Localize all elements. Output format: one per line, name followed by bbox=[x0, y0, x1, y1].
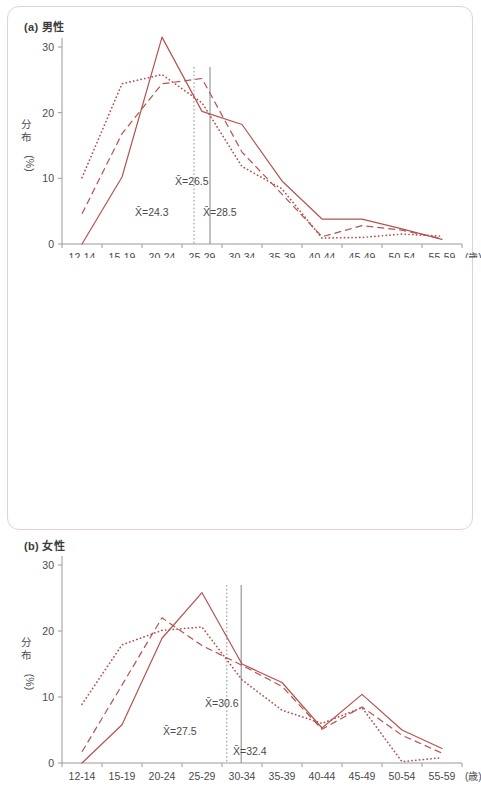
y-tick-label: 30 bbox=[42, 41, 54, 53]
annotation-mean-solid: X̄=27.5 bbox=[163, 725, 197, 737]
x-tick-label: 55-59 bbox=[429, 251, 456, 258]
x-tick-label: 30-34 bbox=[229, 770, 256, 782]
x-tick-label: 15-19 bbox=[109, 770, 136, 782]
x-tick-label: 40-44 bbox=[309, 251, 336, 258]
x-tick-label: 20-24 bbox=[149, 770, 176, 782]
series-line-dashed bbox=[82, 618, 442, 753]
annotation-mean-dashed: X̄=28.5 bbox=[203, 206, 237, 218]
annotation-mean-dashed: X̄=32.4 bbox=[233, 745, 267, 757]
y-tick-label: 10 bbox=[42, 172, 54, 184]
y-tick-label: 10 bbox=[42, 691, 54, 703]
x-tick-label: 20-24 bbox=[149, 251, 176, 258]
chart-svg-female: 010203012-1415-1920-2425-2930-3435-3940-… bbox=[0, 530, 481, 786]
x-tick-label: 40-44 bbox=[309, 770, 336, 782]
x-tick-label: 50-54 bbox=[389, 770, 416, 782]
y-axis-title-2: 布 bbox=[21, 649, 31, 661]
x-tick-label: 35-39 bbox=[269, 251, 296, 258]
annotation-mean-dotted: X̄=26.5 bbox=[175, 175, 209, 187]
chart-svg-male: 010203012-1415-1920-2425-2930-3435-3940-… bbox=[0, 0, 481, 258]
x-axis-unit: (歳) bbox=[465, 252, 481, 258]
y-axis-title: 分 bbox=[21, 636, 32, 648]
series-line-solid bbox=[82, 593, 442, 763]
x-tick-label: 45-49 bbox=[349, 251, 376, 258]
x-tick-label: 50-54 bbox=[389, 251, 416, 258]
y-tick-label: 20 bbox=[42, 625, 54, 637]
x-tick-label: 45-49 bbox=[349, 770, 376, 782]
x-axis-unit: (歳) bbox=[465, 771, 481, 782]
y-tick-label: 0 bbox=[48, 757, 54, 769]
x-tick-label: 55-59 bbox=[429, 770, 456, 782]
y-tick-label: 20 bbox=[42, 107, 54, 119]
y-tick-label: 0 bbox=[48, 238, 54, 250]
x-tick-label: 15-19 bbox=[109, 251, 136, 258]
y-tick-label: 30 bbox=[42, 559, 54, 571]
y-axis-unit: (%) bbox=[24, 155, 36, 171]
x-tick-label: 30-34 bbox=[229, 251, 256, 258]
x-tick-label: 35-39 bbox=[269, 770, 296, 782]
y-axis-title-2: 布 bbox=[21, 131, 31, 143]
x-tick-label: 12-14 bbox=[69, 251, 96, 258]
x-tick-label: 12-14 bbox=[69, 770, 96, 782]
annotation-mean-dotted: X̄=30.6 bbox=[205, 697, 239, 709]
x-tick-label: 25-29 bbox=[189, 770, 216, 782]
x-tick-label: 25-29 bbox=[189, 251, 216, 258]
annotation-mean-solid: X̄=24.3 bbox=[135, 206, 169, 218]
y-axis-unit: (%) bbox=[24, 674, 36, 690]
y-axis-title: 分 bbox=[21, 118, 32, 130]
